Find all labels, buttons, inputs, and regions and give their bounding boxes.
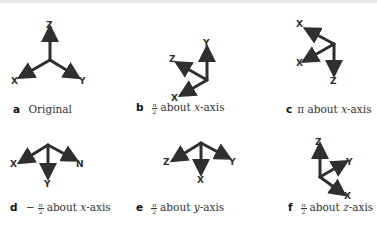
panel-e: Z Y X eπ2about y-axis [125,113,250,226]
caption-f: fπ2about z-axis [288,201,373,215]
panel-a: Z X Y a Original [0,0,125,113]
svg-text:X: X [296,58,303,68]
svg-text:Y: Y [228,157,236,167]
axes-original-icon: Z X Y [0,0,125,113]
z-label: Z [46,20,53,30]
svg-text:Z: Z [315,137,322,147]
svg-text:X: X [296,19,303,29]
svg-text:X: X [344,191,351,201]
y-label: Y [78,76,86,86]
axes-rot-c-icon: X X Z [250,0,377,113]
panel-d: X N Y d −π2about x-axis [0,113,125,226]
svg-text:Z: Z [169,54,176,64]
panel-b: Y Z X bπ2about x-axis [125,0,250,113]
svg-text:X: X [197,175,204,185]
svg-text:Y: Y [202,38,210,48]
svg-text:X: X [10,159,17,169]
svg-text:Z: Z [163,157,170,167]
svg-text:Z: Z [330,76,337,86]
svg-text:Y: Y [43,179,51,189]
caption-e: eπ2about y-axis [136,201,224,215]
caption-d: d −π2about x-axis [10,201,111,215]
svg-text:N: N [76,159,84,169]
axes-rot-b-icon: Y Z X [125,0,250,113]
panel-f: Z Y X fπ2about z-axis [250,113,375,226]
panel-c: X X Z cπ about x-axis [250,0,375,113]
x-label: X [11,76,18,86]
svg-text:Y: Y [345,157,353,167]
